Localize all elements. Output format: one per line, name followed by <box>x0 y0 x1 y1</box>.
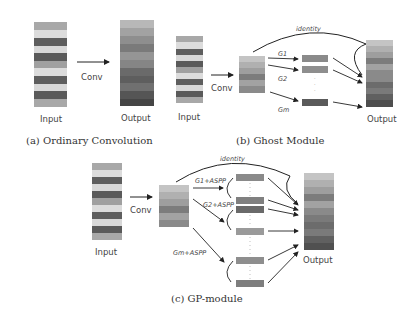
input-label-c: Input <box>95 247 118 257</box>
identity-label-b: identity <box>296 25 321 33</box>
caption-b: (b) Ghost Module <box>236 135 324 146</box>
panel-b-ghost-module: Input Conv identity G1 G2 Gm · · · <box>176 25 397 146</box>
panel-c-gp-module: Input Conv identity G1+ASPP G2+ASPP Gm+A… <box>92 155 334 304</box>
svg-text:·: · <box>314 87 316 93</box>
input-tensor-a <box>34 22 67 107</box>
intrinsic-features-c <box>159 185 189 227</box>
ghost-map-2 <box>302 66 328 73</box>
op-label-g1: G1 <box>278 50 287 58</box>
diagram-canvas: Input Conv Output (a) Ordinary Convoluti… <box>0 0 416 318</box>
conv-label-a: Conv <box>81 72 103 82</box>
output-label-b: Output <box>367 114 397 124</box>
ghost-maps-c <box>227 174 264 287</box>
conv-label-c: Conv <box>130 205 152 215</box>
identity-path-b <box>253 33 366 52</box>
output-tensor-a <box>120 20 154 106</box>
identity-path-c <box>176 163 290 182</box>
output-label-a: Output <box>121 113 151 123</box>
output-tensor-c <box>304 173 334 250</box>
ghost-map-m <box>302 99 328 106</box>
output-tensor-b <box>366 40 393 107</box>
op-label-g2: G2 <box>278 75 287 83</box>
panel-a-ordinary-convolution: Input Conv Output (a) Ordinary Convoluti… <box>26 20 154 146</box>
caption-c: (c) GP-module <box>171 293 243 304</box>
input-label-a: Input <box>40 114 63 124</box>
conv-label-b: Conv <box>211 83 233 93</box>
op-label-g2-aspp: G2+ASPP <box>203 201 234 209</box>
identity-label-c: identity <box>220 155 245 163</box>
op-label-gm-aspp: Gm+ASPP <box>173 249 206 257</box>
output-label-c: Output <box>303 255 333 265</box>
caption-a: (a) Ordinary Convolution <box>26 135 153 146</box>
input-tensor-c <box>92 163 122 240</box>
input-tensor-b <box>176 36 203 103</box>
intrinsic-features-b <box>239 56 265 93</box>
op-label-g1-aspp: G1+ASPP <box>195 177 226 185</box>
input-label-b: Input <box>178 112 201 122</box>
ghost-map-1 <box>302 55 328 62</box>
op-label-gm: Gm <box>278 106 289 114</box>
